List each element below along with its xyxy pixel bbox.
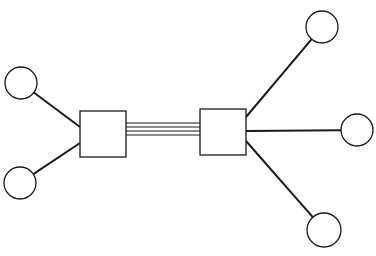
- spoke-line-node-right-top: [246, 39, 312, 117]
- node-circles: [4, 11, 373, 247]
- spoke-line-node-right-bottom: [246, 141, 313, 217]
- hub-boxes: [80, 109, 246, 157]
- spoke-line-node-right-middle: [246, 130, 341, 131]
- spoke-line-node-left-bottom: [33, 143, 80, 174]
- network-diagram: [0, 0, 376, 256]
- trunk-lines: [126, 123, 200, 135]
- node-left-top-circle: [5, 67, 37, 99]
- hub-right-box: [200, 109, 246, 155]
- hub-left-box: [80, 111, 126, 157]
- node-right-top-circle: [306, 11, 338, 43]
- node-right-bottom-circle: [307, 213, 341, 247]
- node-right-middle-circle: [341, 114, 373, 146]
- node-left-bottom-circle: [4, 167, 36, 199]
- spoke-line-node-left-top: [34, 93, 80, 127]
